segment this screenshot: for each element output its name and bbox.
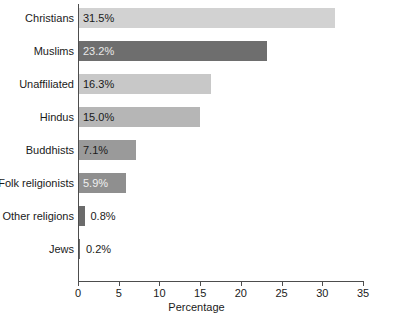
x-tick bbox=[322, 282, 323, 286]
x-tick bbox=[241, 282, 242, 286]
x-tick-label: 30 bbox=[316, 287, 328, 299]
bar-value-label: 23.2% bbox=[83, 41, 114, 61]
bar-value-label: 0.2% bbox=[86, 239, 111, 259]
bar-row: 16.3% bbox=[78, 74, 363, 94]
x-tick bbox=[119, 282, 120, 286]
x-tick-label: 20 bbox=[235, 287, 247, 299]
x-tick bbox=[78, 282, 79, 286]
category-label: Unaffiliated bbox=[19, 74, 74, 94]
bar-row: 0.8% bbox=[78, 206, 363, 226]
category-label: Folk religionists bbox=[0, 173, 74, 193]
bar-value-label: 5.9% bbox=[83, 173, 108, 193]
x-tick-label: 15 bbox=[194, 287, 206, 299]
category-label: Other religions bbox=[2, 206, 74, 226]
x-tick bbox=[159, 282, 160, 286]
bar-row: 15.0% bbox=[78, 107, 363, 127]
y-axis-line bbox=[78, 4, 79, 281]
x-tick bbox=[282, 282, 283, 286]
x-tick-label: 5 bbox=[116, 287, 122, 299]
category-label: Christians bbox=[25, 8, 74, 28]
bar-row: 23.2% bbox=[78, 41, 363, 61]
x-tick-label: 0 bbox=[75, 287, 81, 299]
x-axis-title: Percentage bbox=[0, 301, 393, 313]
bar-chart: 31.5%23.2%16.3%15.0%7.1%5.9%0.8%0.2% 051… bbox=[0, 0, 393, 316]
category-label: Muslims bbox=[34, 41, 74, 61]
bar-value-label: 0.8% bbox=[91, 206, 116, 226]
x-tick-label: 25 bbox=[275, 287, 287, 299]
x-axis-line bbox=[78, 281, 364, 282]
x-tick-label: 10 bbox=[153, 287, 165, 299]
bar-value-label: 31.5% bbox=[83, 8, 114, 28]
category-label: Jews bbox=[49, 239, 74, 259]
x-tick bbox=[200, 282, 201, 286]
bar bbox=[78, 8, 335, 28]
category-label: Buddhists bbox=[26, 140, 74, 160]
x-tick bbox=[363, 282, 364, 286]
x-tick-label: 35 bbox=[357, 287, 369, 299]
bar-row: 31.5% bbox=[78, 8, 363, 28]
bar-row: 7.1% bbox=[78, 140, 363, 160]
bar-value-label: 7.1% bbox=[83, 140, 108, 160]
bar-row: 5.9% bbox=[78, 173, 363, 193]
bar-value-label: 16.3% bbox=[83, 74, 114, 94]
category-label: Hindus bbox=[40, 107, 74, 127]
bar-row: 0.2% bbox=[78, 239, 363, 259]
bar-value-label: 15.0% bbox=[83, 107, 114, 127]
plot-area: 31.5%23.2%16.3%15.0%7.1%5.9%0.8%0.2% bbox=[78, 0, 363, 281]
